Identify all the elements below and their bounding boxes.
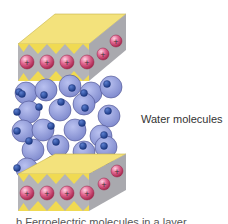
svg-text:+: + — [44, 190, 50, 198]
svg-text:+: + — [113, 38, 119, 46]
svg-text:+: + — [44, 59, 50, 67]
water-layer-diagram: ++++++ — [0, 0, 228, 224]
svg-text:+: + — [64, 59, 70, 67]
svg-text:+: + — [84, 59, 90, 67]
top-crystal-plate: ++++++ — [18, 14, 126, 81]
svg-text:+: + — [100, 51, 106, 59]
svg-text:+: + — [101, 181, 107, 189]
water-molecules-label: Water molecules — [141, 113, 223, 125]
svg-text:+: + — [64, 190, 70, 198]
svg-text:+: + — [114, 168, 120, 176]
figure-caption: b Ferroelectric molecules in a layer — [16, 216, 187, 224]
svg-text:+: + — [24, 190, 30, 198]
svg-text:+: + — [84, 190, 90, 198]
svg-text:+: + — [24, 59, 30, 67]
